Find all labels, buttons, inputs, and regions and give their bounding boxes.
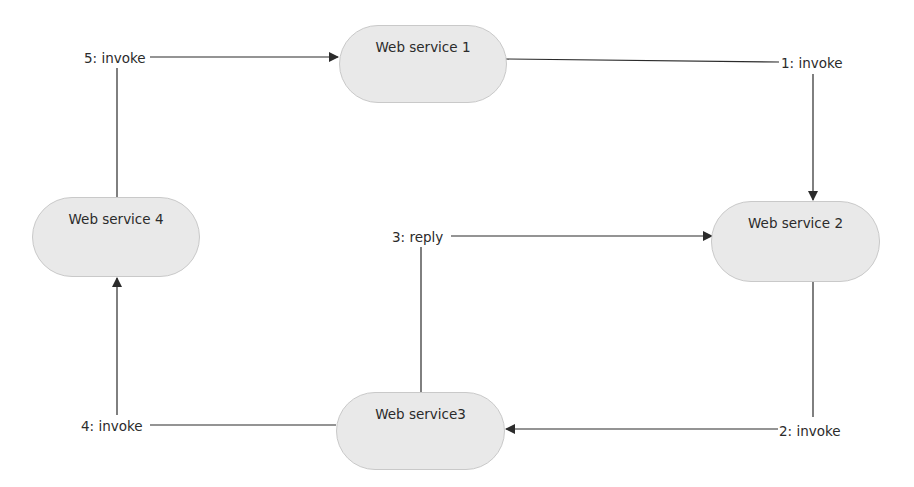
node-label: Web service 4: [69, 211, 164, 227]
node-web-service-4[interactable]: Web service 4: [32, 197, 200, 277]
node-web-service-2[interactable]: Web service 2: [711, 201, 880, 282]
edge-label-1: 1: invoke: [781, 55, 843, 71]
edge-4-invoke: [117, 278, 336, 425]
node-web-service-3[interactable]: Web service3: [336, 392, 505, 470]
node-label: Web service3: [375, 406, 466, 422]
edge-3-reply: [421, 236, 712, 392]
edge-label-4: 4: invoke: [81, 418, 143, 434]
edge-label-3: 3: reply: [392, 229, 443, 245]
node-label: Web service 2: [748, 215, 843, 231]
edge-label-2: 2: invoke: [779, 423, 841, 439]
edge-1-invoke: [506, 59, 813, 200]
node-web-service-1[interactable]: Web service 1: [339, 25, 507, 103]
edge-5-invoke: [117, 57, 338, 197]
edge-2-invoke: [506, 282, 813, 429]
node-label: Web service 1: [376, 39, 471, 55]
edge-label-5: 5: invoke: [84, 50, 146, 66]
sequence-diagram: Web service 1 Web service 2 Web service3…: [0, 0, 914, 487]
